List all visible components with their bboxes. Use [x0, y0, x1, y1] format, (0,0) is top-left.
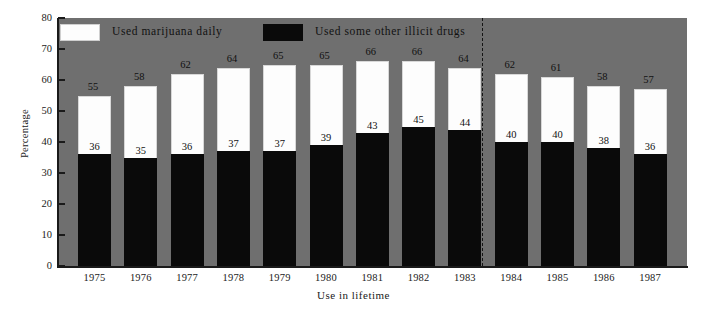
bar-segment-other-illicit-drugs	[124, 158, 157, 267]
bar-segment-other-illicit-drugs	[634, 154, 667, 266]
bar-group: 6444	[448, 68, 481, 266]
bar-total-value-label: 58	[119, 71, 159, 82]
y-axis-tick	[58, 17, 65, 19]
y-axis-tick-label: 70	[24, 43, 52, 54]
bar-segment-value-label: 38	[587, 135, 620, 146]
bar-total-value-label: 62	[166, 59, 206, 70]
legend-label: Used marijuana daily	[112, 25, 222, 37]
bar-segment-value-label: 35	[124, 145, 157, 156]
bar-group: 6437	[217, 68, 250, 266]
y-axis-tick	[58, 48, 65, 50]
period-divider-line	[482, 18, 483, 266]
x-axis-tick-label: 1980	[303, 272, 349, 283]
bar-total-value-label: 64	[212, 53, 252, 64]
y-axis-tick-label: 80	[24, 12, 52, 23]
bar-total-value-label: 64	[443, 53, 483, 64]
bar-group: 6537	[263, 65, 296, 267]
bar-group: 6236	[171, 74, 204, 266]
x-axis-tick-label: 1978	[210, 272, 256, 283]
x-axis-tick-label: 1985	[535, 272, 581, 283]
bar-segment-value-label: 45	[402, 114, 435, 125]
bar-segment-value-label: 36	[78, 141, 111, 152]
bar-segment-value-label: 37	[217, 138, 250, 149]
bar-segment-value-label: 36	[634, 141, 667, 152]
bar-segment-value-label: 36	[171, 141, 204, 152]
bar-total-value-label: 58	[582, 71, 622, 82]
bar-segment-other-illicit-drugs	[217, 151, 250, 266]
bar-segment-value-label: 40	[541, 129, 574, 140]
bar-total-value-label: 55	[73, 81, 113, 92]
bar-group: 5835	[124, 86, 157, 266]
y-axis-tick-label: 0	[24, 260, 52, 271]
y-axis-tick	[58, 141, 65, 143]
bar-segment-other-illicit-drugs	[171, 154, 204, 266]
y-axis-tick	[58, 110, 65, 112]
bar-segment-other-illicit-drugs	[495, 142, 528, 266]
x-axis-tick-label: 1982	[396, 272, 442, 283]
y-axis-tick-label: 10	[24, 229, 52, 240]
bar-segment-other-illicit-drugs	[263, 151, 296, 266]
bar-segment-other-illicit-drugs	[356, 133, 389, 266]
bar-segment-other-illicit-drugs	[310, 145, 343, 266]
x-axis-tick-label: 1987	[627, 272, 673, 283]
bar-segment-other-illicit-drugs	[402, 127, 435, 267]
bar-segment-other-illicit-drugs	[541, 142, 574, 266]
bar-total-value-label: 66	[351, 46, 391, 57]
y-axis-tick	[58, 265, 65, 267]
bar-segment-value-label: 43	[356, 120, 389, 131]
bar-total-value-label: 62	[490, 59, 530, 70]
x-axis-tick-label: 1986	[581, 272, 627, 283]
x-axis-tick-label: 1975	[72, 272, 118, 283]
bar-total-value-label: 57	[629, 74, 669, 85]
bar-chart: 01020304050607080 Percentage 55365835623…	[0, 0, 707, 309]
legend-label: Used some other illicit drugs	[315, 25, 465, 37]
x-axis-line	[57, 266, 688, 268]
y-axis-title: Percentage	[19, 94, 30, 174]
y-axis-tick	[58, 172, 65, 174]
bar-group: 6645	[402, 61, 435, 266]
legend-swatch-black	[263, 24, 303, 41]
bar-group: 5736	[634, 89, 667, 266]
bar-group: 6140	[541, 77, 574, 266]
bar-segment-value-label: 40	[495, 129, 528, 140]
y-axis-tick	[58, 203, 65, 205]
x-axis-tick-label: 1976	[118, 272, 164, 283]
bar-segment-value-label: 44	[448, 117, 481, 128]
bar-segment-value-label: 39	[310, 132, 343, 143]
y-axis-tick-label: 20	[24, 198, 52, 209]
x-axis-tick-label: 1983	[442, 272, 488, 283]
bar-segment-value-label: 37	[263, 138, 296, 149]
bar-segment-other-illicit-drugs	[78, 154, 111, 266]
bar-group: 6240	[495, 74, 528, 266]
bar-group: 6539	[310, 65, 343, 267]
bar-total-value-label: 65	[258, 50, 298, 61]
y-axis-tick	[58, 234, 65, 236]
legend-swatch-white	[60, 24, 100, 41]
x-axis-tick-label: 1984	[488, 272, 534, 283]
x-axis-tick-label: 1979	[257, 272, 303, 283]
bar-total-value-label: 66	[397, 46, 437, 57]
x-axis-tick-label: 1977	[164, 272, 210, 283]
bar-segment-other-illicit-drugs	[448, 130, 481, 266]
bar-total-value-label: 65	[305, 50, 345, 61]
x-axis-title: Use in lifetime	[0, 289, 707, 301]
x-axis-tick-label: 1981	[349, 272, 395, 283]
bar-group: 6643	[356, 61, 389, 266]
y-axis-tick	[58, 79, 65, 81]
y-axis-tick-label: 60	[24, 74, 52, 85]
bar-total-value-label: 61	[536, 62, 576, 73]
bar-group: 5536	[78, 96, 111, 267]
bar-group: 5838	[587, 86, 620, 266]
bar-segment-other-illicit-drugs	[587, 148, 620, 266]
